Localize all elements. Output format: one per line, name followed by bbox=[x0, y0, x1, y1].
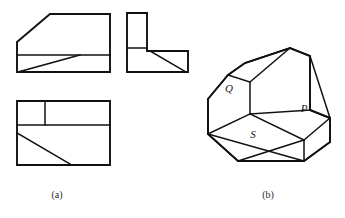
caption-b: (b) bbox=[262, 189, 274, 201]
caption-a: (a) bbox=[51, 189, 62, 201]
technical-drawing-canvas: Q P S (a) (b) bbox=[0, 0, 345, 218]
top-view-outline bbox=[17, 101, 110, 165]
figure-root: Q P S (a) (b) bbox=[0, 0, 345, 218]
top-view bbox=[17, 101, 110, 165]
face-label-s: S bbox=[250, 128, 256, 140]
face-label-q: Q bbox=[225, 82, 233, 94]
face-label-p: P bbox=[300, 102, 308, 114]
